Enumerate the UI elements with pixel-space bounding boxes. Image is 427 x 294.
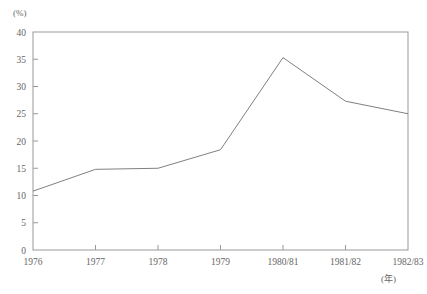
y-tick-label: 35 [17, 55, 27, 65]
y-tick-label: 20 [17, 137, 27, 147]
plot-frame [33, 32, 408, 250]
y-tick-label: 5 [21, 218, 26, 228]
x-tick-label: 1977 [86, 257, 105, 267]
y-tick-label: 40 [17, 28, 27, 38]
y-tick-mark-group [33, 59, 38, 223]
x-tick-mark-group [96, 245, 346, 250]
y-tick-label: 10 [17, 191, 27, 201]
x-tick-label: 1976 [24, 257, 43, 267]
x-tick-label: 1980/81 [267, 257, 298, 267]
x-tick-label: 1978 [149, 257, 168, 267]
line-chart-figure: (%) (年) 0510152025303540 197619771978197… [0, 0, 427, 294]
data-series-line [33, 58, 408, 192]
y-tick-label: 25 [17, 109, 27, 119]
y-tick-label-group: 0510152025303540 [17, 28, 27, 256]
x-tick-label: 1982/83 [392, 257, 423, 267]
chart-plot-area: 0510152025303540 19761977197819791980/81… [0, 0, 427, 294]
series-polyline [33, 58, 408, 192]
x-tick-label-group: 19761977197819791980/811981/821982/83 [24, 257, 424, 267]
x-tick-label: 1979 [211, 257, 230, 267]
y-tick-label: 30 [17, 82, 27, 92]
y-tick-label: 0 [21, 246, 26, 256]
x-tick-label: 1981/82 [330, 257, 361, 267]
y-tick-label: 15 [17, 164, 27, 174]
